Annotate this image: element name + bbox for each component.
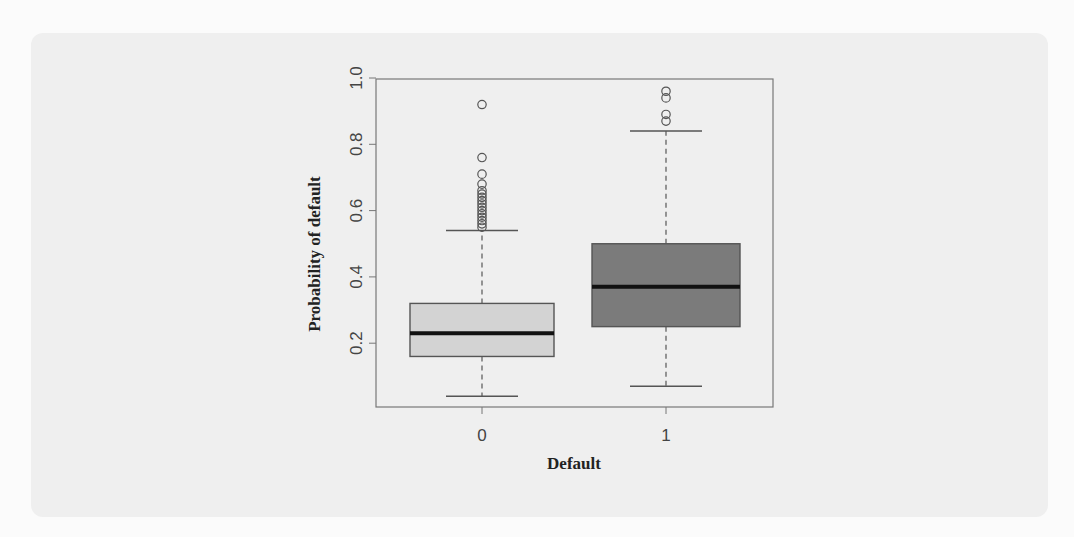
x-tick-label: 1 xyxy=(661,426,670,445)
y-tick-label: 0.4 xyxy=(347,265,366,289)
boxes xyxy=(410,87,740,396)
y-tick-label: 0.2 xyxy=(347,331,366,355)
plot-frame xyxy=(376,79,773,407)
y-axis: 0.20.40.60.81.0 xyxy=(347,66,376,355)
y-tick-label: 0.8 xyxy=(347,132,366,156)
y-tick-label: 0.6 xyxy=(347,199,366,223)
outlier-point xyxy=(478,100,486,108)
outlier-point xyxy=(478,153,486,161)
y-axis-title: Probability of default xyxy=(305,176,324,332)
plot-border xyxy=(376,79,773,407)
x-axis: 01 xyxy=(477,407,670,445)
box-group-1 xyxy=(592,87,740,386)
x-tick-label: 0 xyxy=(477,426,486,445)
outlier-point xyxy=(478,170,486,178)
boxplot-chart: 0.20.40.60.81.0 01 Probability of defaul… xyxy=(0,0,1074,537)
x-axis-title: Default xyxy=(547,454,601,473)
box-group-0 xyxy=(410,100,554,396)
y-tick-label: 1.0 xyxy=(347,66,366,90)
iqr-box xyxy=(410,303,554,356)
